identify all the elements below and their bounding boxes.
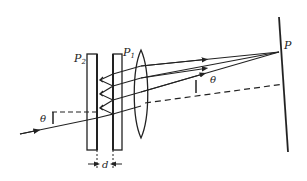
plate-p2-label: P2 [73, 52, 86, 66]
incident-angle-label: θ [40, 113, 46, 124]
screen [279, 17, 288, 152]
screen-point-label: P [283, 39, 292, 52]
plate-p1 [113, 54, 122, 150]
transmitted-rays [113, 66, 141, 114]
incident-ray [20, 118, 97, 134]
multiple-reflections [97, 74, 113, 118]
convex-lens [134, 50, 148, 138]
axis-dashed [145, 84, 284, 103]
exit-angle-label: θ [210, 74, 216, 85]
plate-p2 [87, 54, 97, 150]
plate-p1-label: P1 [122, 46, 135, 60]
separation-label: d [102, 159, 108, 170]
fabry-perot-diagram: P2 P1 P θ [0, 0, 307, 181]
focused-rays [141, 52, 279, 92]
